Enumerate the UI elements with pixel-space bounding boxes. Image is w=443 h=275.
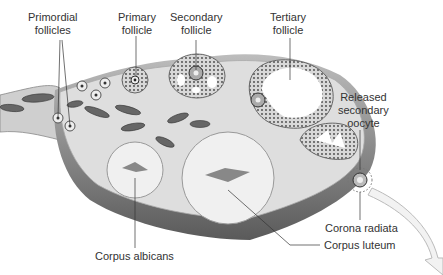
label-primary-follicle: Primary follicle: [118, 11, 156, 37]
label-released-oocyte: Released secondary oocyte: [338, 91, 389, 130]
label-corona-radiata: Corona radiata: [325, 222, 398, 235]
label-corpus-luteum: Corpus luteum: [324, 239, 396, 252]
ovarian-ligament: [0, 86, 60, 140]
label-primordial-follicles: Primordial follicles: [28, 11, 78, 37]
label-secondary-follicle: Secondary follicle: [170, 11, 223, 37]
label-corpus-albicans: Corpus albicans: [95, 250, 174, 263]
label-tertiary-follicle: Tertiary follicle: [270, 11, 306, 37]
